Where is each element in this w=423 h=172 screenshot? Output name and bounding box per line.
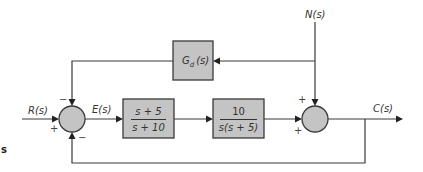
error-signal: E(s): [85, 104, 123, 123]
sum1-sign-bottom: −: [78, 132, 86, 143]
sum1-sign-left: +: [50, 123, 58, 134]
arrow-head-icon: [213, 58, 220, 65]
controller-block: s + 5 s + 10: [123, 99, 174, 138]
input-r-label: R(s): [28, 105, 48, 116]
edge-text-fragment: s: [1, 144, 7, 155]
sum2-sign-left: +: [294, 125, 302, 136]
summing-junction-2: [302, 106, 328, 132]
arrow-head-icon: [206, 116, 213, 123]
controller-numerator: s + 5: [135, 106, 161, 117]
summing-junction-1: [59, 106, 85, 132]
arrow-head-icon: [69, 99, 76, 106]
output-c-label: C(s): [373, 103, 393, 114]
plant-block: 10 s(s + 5): [213, 99, 264, 138]
arrow-head-icon: [69, 132, 76, 139]
gd-block: Gd(s): [173, 41, 213, 80]
sum2-sign-top: +: [298, 94, 306, 105]
controller-denominator: s + 10: [132, 122, 165, 133]
sum1-sign-top: −: [59, 94, 67, 105]
gd-to-sum1-line: [72, 61, 173, 103]
arrow-head-icon: [295, 116, 302, 123]
plant-denominator: s(s + 5): [219, 122, 258, 133]
input-r-signal: R(s) +: [22, 105, 59, 134]
disturbance-n-label: N(s): [305, 9, 326, 20]
plant-numerator: 10: [232, 106, 245, 117]
block-diagram: R(s) + − − E(s) s + 5 s + 10 10 s(s + 5)…: [0, 0, 423, 172]
error-e-label: E(s): [92, 104, 111, 115]
disturbance-n-signal: N(s): [305, 9, 326, 106]
